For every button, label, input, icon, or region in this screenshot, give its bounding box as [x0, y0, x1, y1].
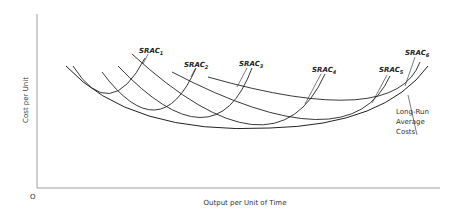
- srac6-leader: [405, 57, 415, 86]
- srac1-leader: [143, 54, 148, 64]
- lrac-annotation: Long-Run Average Costs: [396, 108, 431, 136]
- srac3-leader: [237, 68, 247, 87]
- srac2-curve: [102, 68, 196, 110]
- srac2-leader: [191, 69, 195, 77]
- srac3-label: SRAC3: [239, 60, 264, 69]
- srac2-label: SRAC2: [184, 61, 209, 70]
- y-axis-label: Cost per Unit: [22, 77, 30, 123]
- srac6-label: SRAC6: [405, 49, 430, 58]
- x-axis-label: Output per Unit of Time: [204, 199, 287, 207]
- lrac-diagram: SRAC1 SRAC2 SRAC3 SRAC4 SRAC5 SRAC6 Long…: [0, 0, 462, 215]
- origin-label: O: [30, 193, 36, 201]
- srac5-label: SRAC5: [379, 66, 404, 75]
- srac4-label: SRAC4: [312, 66, 337, 75]
- srac1-label: SRAC1: [139, 47, 163, 56]
- srac4-curve: [132, 54, 325, 125]
- srac3-curve: [118, 66, 252, 118]
- srac5-leader: [372, 75, 387, 103]
- srac1-curve: [73, 58, 145, 94]
- srac5-curve: [172, 72, 390, 120]
